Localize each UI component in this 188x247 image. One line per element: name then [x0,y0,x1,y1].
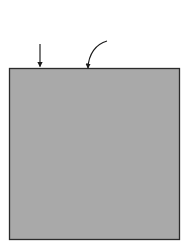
plate-surface [10,69,180,240]
annotation-arrows [40,41,107,68]
transistor-arrow [88,41,107,68]
aluminum-plate [10,69,180,240]
figure-container [0,0,188,247]
figure-graphics [0,0,188,247]
